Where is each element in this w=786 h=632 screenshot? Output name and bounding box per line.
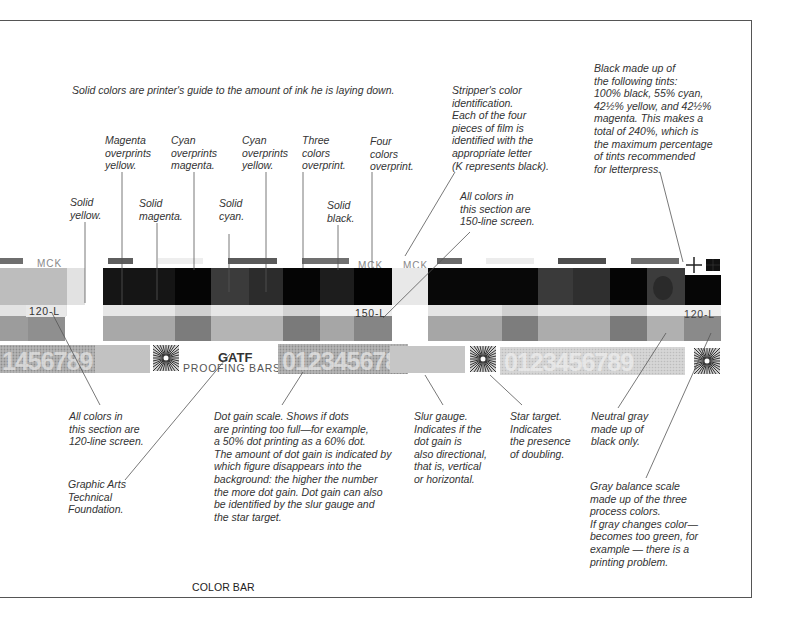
strip-marks: [0, 258, 679, 264]
dot-gain-digits-right: 0123456789: [504, 348, 633, 376]
proofing-bars-label: PROOFING BARS: [183, 362, 281, 374]
screen-120-left-label: 120-L: [29, 305, 60, 317]
color-bar-artwork: MCK MCK MCK 120-L 150-L: [0, 0, 786, 632]
screen-120-right-label: 120-L: [684, 308, 715, 320]
dot-gain-digits-left: 1456789: [2, 347, 92, 375]
mck-left-label: MCK: [37, 258, 62, 269]
screen-150-label: 150-L: [355, 307, 386, 319]
